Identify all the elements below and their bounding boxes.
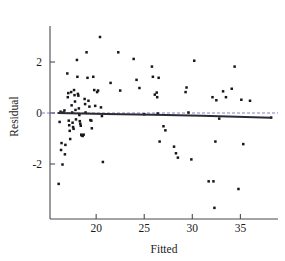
data-point bbox=[70, 91, 73, 94]
data-point bbox=[67, 96, 70, 99]
data-point bbox=[92, 76, 95, 79]
data-point bbox=[91, 127, 94, 130]
data-point bbox=[190, 158, 193, 161]
data-point bbox=[211, 96, 214, 99]
data-point bbox=[72, 128, 75, 131]
data-point bbox=[76, 59, 79, 62]
data-point bbox=[151, 65, 154, 68]
data-point bbox=[135, 79, 138, 82]
data-point bbox=[71, 121, 74, 124]
data-point bbox=[74, 100, 77, 103]
data-point bbox=[67, 92, 70, 95]
data-point bbox=[60, 149, 63, 152]
x-tick-label: 25 bbox=[138, 222, 150, 234]
data-point bbox=[78, 107, 81, 110]
data-point bbox=[99, 36, 102, 39]
x-axis-ticks: 20253035 bbox=[90, 214, 246, 234]
data-point bbox=[101, 115, 104, 118]
data-point bbox=[66, 72, 69, 75]
data-point bbox=[207, 180, 210, 183]
data-point bbox=[214, 140, 217, 143]
x-tick-label: 20 bbox=[90, 222, 102, 234]
plot-axes bbox=[50, 26, 278, 219]
data-point bbox=[230, 88, 233, 91]
data-point bbox=[225, 96, 228, 99]
data-point bbox=[68, 130, 71, 133]
data-point bbox=[69, 138, 72, 141]
data-point bbox=[82, 133, 85, 136]
data-point bbox=[83, 98, 86, 101]
data-point bbox=[76, 76, 79, 79]
y-tick-label: 2 bbox=[36, 56, 42, 68]
data-point bbox=[93, 89, 96, 92]
y-tick-label: -2 bbox=[32, 158, 42, 170]
data-point bbox=[60, 142, 63, 145]
data-point bbox=[79, 120, 82, 123]
residual-plot-figure: 20253035 20-2 Fitted Residual bbox=[0, 0, 285, 261]
data-point bbox=[184, 91, 187, 94]
x-tick-label: 30 bbox=[187, 222, 199, 234]
data-point bbox=[80, 125, 83, 128]
data-point bbox=[157, 77, 160, 80]
data-point bbox=[109, 82, 112, 85]
data-point bbox=[187, 111, 190, 114]
data-point bbox=[249, 100, 252, 103]
data-point bbox=[90, 119, 93, 122]
data-point bbox=[88, 105, 91, 108]
data-point bbox=[177, 156, 180, 159]
data-point bbox=[64, 144, 67, 147]
data-point bbox=[155, 91, 158, 94]
data-point bbox=[87, 100, 90, 103]
data-point bbox=[242, 143, 245, 146]
data-point bbox=[193, 59, 196, 62]
data-point bbox=[132, 58, 135, 61]
data-point bbox=[58, 121, 61, 124]
data-point bbox=[117, 51, 120, 54]
data-point bbox=[233, 65, 236, 68]
data-point bbox=[102, 161, 105, 164]
y-axis-title: Residual bbox=[8, 96, 20, 136]
data-point bbox=[215, 99, 218, 102]
data-point bbox=[74, 109, 77, 112]
data-point bbox=[173, 145, 176, 148]
data-point bbox=[64, 153, 67, 156]
data-point bbox=[84, 103, 87, 106]
data-point bbox=[61, 163, 64, 166]
data-point bbox=[68, 119, 71, 122]
data-point bbox=[213, 207, 216, 210]
data-point bbox=[162, 125, 165, 128]
data-point bbox=[85, 51, 88, 54]
data-point bbox=[185, 86, 188, 89]
data-point bbox=[73, 94, 76, 97]
data-point bbox=[73, 89, 76, 92]
data-point bbox=[158, 140, 161, 143]
data-point bbox=[222, 90, 225, 93]
fit-line bbox=[58, 113, 271, 118]
data-point bbox=[100, 106, 103, 109]
data-point bbox=[68, 124, 71, 127]
y-tick-label: 0 bbox=[36, 107, 42, 119]
data-point bbox=[70, 104, 73, 107]
data-point bbox=[119, 89, 122, 92]
data-points bbox=[57, 36, 272, 209]
data-point bbox=[97, 89, 100, 92]
data-point bbox=[212, 180, 215, 183]
data-point bbox=[218, 117, 221, 120]
data-point bbox=[75, 118, 78, 121]
x-axis-title: Fitted bbox=[151, 243, 178, 255]
data-point bbox=[156, 96, 159, 99]
data-point bbox=[152, 76, 155, 79]
data-point bbox=[57, 183, 60, 186]
data-point bbox=[175, 152, 178, 155]
data-point bbox=[94, 105, 97, 108]
data-point bbox=[63, 109, 66, 112]
data-point bbox=[237, 188, 240, 191]
data-point bbox=[138, 87, 141, 90]
x-tick-label: 35 bbox=[235, 222, 247, 234]
data-point bbox=[86, 77, 89, 80]
data-point bbox=[240, 98, 243, 101]
data-point bbox=[164, 129, 167, 132]
data-point bbox=[77, 94, 80, 97]
scatter-plot-canvas: 20253035 20-2 Fitted Residual bbox=[0, 0, 285, 261]
